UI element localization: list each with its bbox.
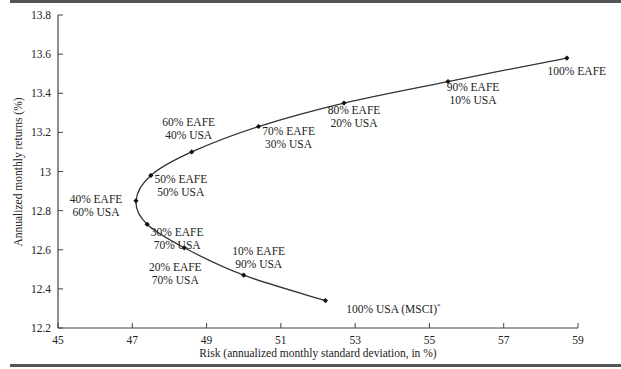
data-point-marker (189, 149, 194, 154)
y-tick-label: 12.2 (31, 322, 51, 334)
point-label: 40% EAFE (70, 193, 123, 205)
point-label: 90% EAFE (447, 81, 500, 93)
point-label: 30% USA (265, 138, 313, 150)
y-tick-label: 13.8 (31, 9, 51, 21)
efficient-frontier-chart: 4547495153555759 12.212.412.612.81313.21… (0, 0, 621, 369)
x-tick-label: 45 (52, 334, 64, 346)
x-axis-ticks: 4547495153555759 (52, 323, 584, 346)
y-tick-label: 12.4 (31, 283, 51, 295)
y-tick-label: 13.4 (31, 87, 51, 99)
point-label: 80% EAFE (328, 104, 381, 116)
data-point-marker (241, 273, 246, 278)
point-label: 20% USA (331, 117, 379, 129)
data-point-marker (564, 55, 569, 60)
x-tick-label: 51 (275, 334, 287, 346)
x-tick-label: 59 (572, 334, 584, 346)
point-label: 70% USA (152, 274, 200, 286)
point-label: 60% USA (73, 206, 121, 218)
point-label: 50% USA (157, 186, 205, 198)
point-label: 100% EAFE (548, 65, 606, 77)
y-tick-label: 13 (40, 166, 52, 178)
point-label: 50% EAFE (154, 173, 207, 185)
point-label: 30% EAFE (151, 226, 204, 238)
x-tick-label: 49 (201, 334, 213, 346)
point-label: 90% USA (235, 258, 283, 270)
data-point-marker (256, 124, 261, 129)
point-label: 20% EAFE (149, 261, 202, 273)
x-tick-label: 55 (424, 334, 436, 346)
point-label: 10% USA (450, 94, 498, 106)
point-labels: 100% USA (MSCI)*10% EAFE90% USA20% EAFE7… (70, 65, 606, 316)
x-axis-label: Risk (annualized monthly standard deviat… (199, 347, 436, 360)
data-point-marker (323, 298, 328, 303)
point-label: 100% USA (MSCI)* (346, 302, 441, 316)
point-label: 70% EAFE (262, 125, 315, 137)
axes (58, 15, 578, 328)
y-tick-label: 12.6 (31, 244, 51, 256)
y-tick-label: 13.6 (31, 48, 51, 60)
x-tick-label: 53 (349, 334, 361, 346)
data-point-marker (133, 198, 138, 203)
y-tick-label: 12.8 (31, 205, 51, 217)
point-label: 60% EAFE (162, 116, 215, 128)
y-tick-label: 13.2 (31, 126, 51, 138)
x-tick-label: 47 (127, 334, 139, 346)
point-label: 70% USA (154, 239, 202, 251)
y-axis-label: Annualized monthly returns (%) (12, 97, 25, 246)
point-label: 40% USA (165, 129, 213, 141)
point-label: 10% EAFE (232, 245, 285, 257)
x-tick-label: 57 (498, 334, 510, 346)
